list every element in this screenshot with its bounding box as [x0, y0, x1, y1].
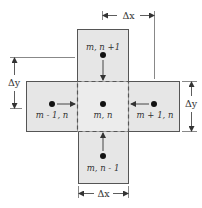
node-bottom — [100, 153, 106, 159]
label-left: m - 1, n — [36, 110, 69, 120]
dim-left-dy: Δy — [8, 77, 21, 88]
dim-top-dx: Δx — [122, 10, 135, 21]
node-right — [151, 101, 157, 107]
dim-right-dy: Δy — [185, 98, 198, 109]
node-top — [100, 52, 106, 58]
dim-bottom-dx: Δx — [97, 188, 110, 199]
label-center: m, n — [94, 110, 113, 120]
label-top: m, n +1 — [86, 42, 120, 52]
label-right: m + 1, n — [137, 110, 174, 120]
node-left — [49, 101, 55, 107]
label-bottom: m, n - 1 — [87, 163, 120, 173]
node-center — [100, 101, 106, 107]
stencil-diagram: m, n +1 m, n m - 1, n m + 1, n m, n - 1 … — [0, 0, 202, 208]
